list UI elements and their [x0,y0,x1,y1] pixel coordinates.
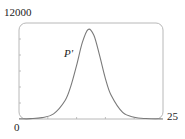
plot-frame [19,23,163,119]
p-prime-curve [19,29,163,119]
y-axis-max-label: 12000 [4,7,32,18]
x-axis-max-label: 25 [167,111,178,122]
x-axis-min-label: 0 [14,122,20,133]
axis-ticks [19,39,134,119]
curve-label: P' [64,48,73,59]
chart-plot-area [0,0,185,139]
